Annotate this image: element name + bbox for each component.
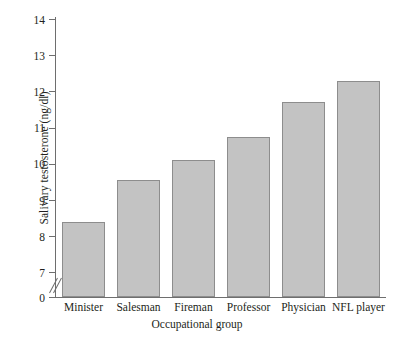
bar-minister: [62, 222, 105, 297]
y-tick-label: 8: [39, 231, 45, 243]
bar-fireman: [172, 160, 215, 297]
bar-series: [56, 14, 386, 297]
y-tick-label: 11: [34, 122, 45, 134]
y-tick-8: 8: [49, 236, 56, 237]
bar-physician: [282, 102, 325, 297]
bar-slot: [166, 14, 221, 297]
bar-slot: [276, 14, 331, 297]
y-tick-label: 14: [34, 14, 46, 26]
y-tick-label: 7: [39, 267, 45, 279]
bar-slot: [331, 14, 386, 297]
y-tick-0: 0: [49, 297, 56, 298]
bar-salesman: [117, 180, 160, 297]
x-axis-line: [55, 297, 386, 298]
y-tick-label: 10: [34, 158, 46, 170]
chart-figure: Salivary testosterone (ng/dl) 0789101112…: [0, 0, 394, 337]
y-tick-13: 13: [49, 55, 56, 56]
x-tick-label: Minister: [56, 301, 111, 313]
bar-nfl-player: [337, 81, 380, 297]
y-tick-label: 9: [39, 195, 45, 207]
x-tick-label: Physician: [276, 301, 331, 313]
y-tick-7: 7: [49, 272, 56, 273]
bar-professor: [227, 137, 270, 297]
x-axis-title: Occupational group: [0, 318, 394, 330]
x-tick-label: Fireman: [166, 301, 221, 313]
x-tick-label: Professor: [221, 301, 276, 313]
y-tick-11: 11: [49, 128, 56, 129]
bar-slot: [111, 14, 166, 297]
y-tick-14: 14: [49, 19, 56, 20]
y-tick-12: 12: [49, 91, 56, 92]
y-tick-9: 9: [49, 200, 56, 201]
y-tick-label: 13: [34, 50, 46, 62]
y-tick-label: 0: [39, 292, 45, 304]
y-tick-label: 12: [34, 86, 46, 98]
y-tick-10: 10: [49, 164, 56, 165]
bar-slot: [221, 14, 276, 297]
x-tick-label: Salesman: [111, 301, 166, 313]
x-tick-label: NFL player: [331, 301, 386, 313]
bar-slot: [56, 14, 111, 297]
